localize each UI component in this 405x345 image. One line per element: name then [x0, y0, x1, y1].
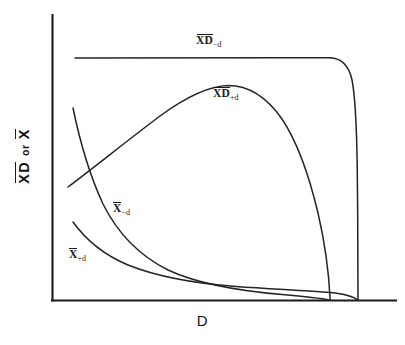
curve-x-plus-d: [73, 222, 358, 300]
curve-label-x-minus-d: X−d: [113, 203, 130, 217]
curve-label-xd-minus-d-sub: −d: [213, 40, 222, 49]
y-axis-title-main: XD: [16, 161, 32, 184]
y-axis-title-conjunction: or: [19, 144, 31, 156]
curve-label-xd-plus-d-base: XD: [213, 88, 230, 100]
curve-label-xd-plus-d: XD+d: [213, 88, 239, 102]
curve-label-x-minus-d-base: X: [113, 203, 122, 215]
curve-label-xd-minus-d-base: XD: [196, 35, 213, 47]
plot-area: [0, 0, 405, 345]
curve-label-x-plus-d-base: X: [69, 249, 78, 261]
y-axis-title-secondary: X: [16, 128, 32, 139]
curve-label-x-plus-d: X+d: [69, 249, 86, 263]
curve-label-xd-minus-d: XD−d: [196, 35, 222, 49]
curve-label-xd-plus-d-sub: +d: [230, 93, 239, 102]
x-axis-title: D: [0, 312, 405, 329]
curve-label-x-plus-d-sub: +d: [78, 254, 87, 263]
curve-label-x-minus-d-sub: −d: [122, 208, 131, 217]
y-axis-title: XD or X: [16, 91, 32, 221]
figure-root: XD−d XD+d X−d X+d XD or X D: [0, 0, 405, 345]
curve-xd-plus-d: [68, 86, 330, 301]
